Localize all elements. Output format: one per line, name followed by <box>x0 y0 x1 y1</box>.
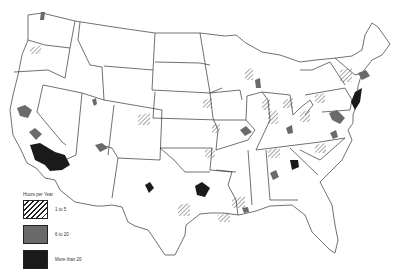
legend-label: 6 to 20 <box>55 232 69 237</box>
legend-label: More than 20 <box>55 257 82 262</box>
legend-item-1-to-5: 1 to 5 <box>23 200 123 222</box>
hatched-swatch <box>23 200 48 219</box>
legend-item-more-than-20: More than 20 <box>23 250 123 272</box>
legend-title: Hours per Year <box>23 192 53 197</box>
map-legend: Hours per Year 1 to 5 6 to 20 More than … <box>22 192 122 276</box>
legend-label: 1 to 5 <box>55 207 66 212</box>
medium-swatch <box>23 225 48 244</box>
legend-item-6-to-20: 6 to 20 <box>23 225 123 247</box>
dark-swatch <box>23 250 48 269</box>
